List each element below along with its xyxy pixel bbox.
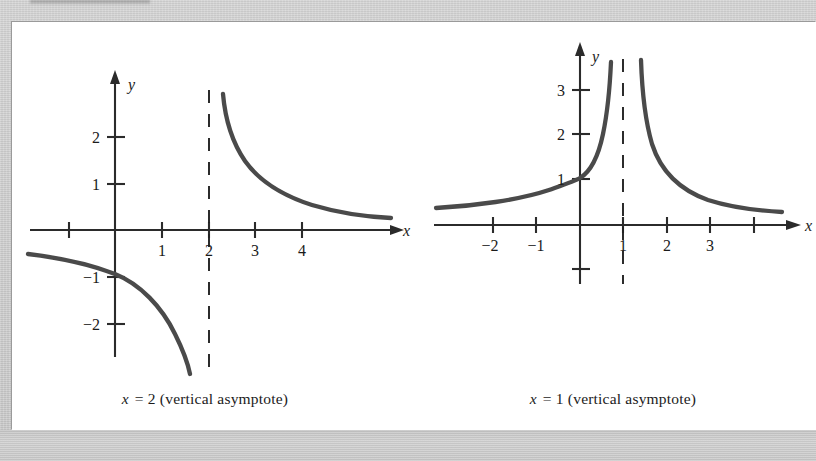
y-tick-label-3: 3 [557,82,565,99]
y-tick-label-2: 2 [557,126,565,143]
caption-left-note: (vertical asymptote) [160,390,288,407]
x-tick-label-4: 4 [298,242,306,259]
caption-left-variable: x [122,390,131,407]
caption-right-variable: x [530,390,539,407]
y-axis-label: y [126,76,136,94]
y-tick-label-minus1: −1 [83,269,100,286]
y-axis-right [575,42,585,284]
page-background: x y 1 2 3 4 2 1 −1 −2 x=2 (vertical asym… [0,0,816,461]
x-axis-arrowhead [390,225,404,235]
y-axis-label: y [590,48,600,66]
y-tick-label-1: 1 [92,176,100,193]
chart-right-plot: x y −2 −1 1 2 3 3 2 1 [414,22,816,390]
caption-right-note: (vertical asymptote) [568,390,696,407]
x-tick-label-2: 2 [663,237,671,254]
caption-left-value: 2 [148,390,156,407]
x-axis-left [30,225,404,235]
page-bottom-band [0,430,816,461]
x-tick-label-3: 3 [251,242,259,259]
x-tick-label-minus1: −1 [527,237,544,254]
y-tick-label-minus2: −2 [83,316,100,333]
y-axis-arrowhead [575,42,585,56]
x-tick-label-1: 1 [619,237,627,254]
y-tick-label-2: 2 [92,129,100,146]
y-axis-arrowhead [110,70,120,84]
chart-right: x y −2 −1 1 2 3 3 2 1 x=1 (vertical asym… [414,22,816,430]
chart-left-plot: x y 1 2 3 4 2 1 −1 −2 [12,22,414,390]
x-axis-arrowhead [786,220,801,230]
y-tick-label-1: 1 [557,171,565,188]
curve-right-branch [641,60,782,212]
x-axis-right [434,220,801,230]
curve-right-branch [223,94,391,218]
x-tick-label-3: 3 [706,237,714,254]
chart-left: x y 1 2 3 4 2 1 −1 −2 x=2 (vertical asym… [12,22,414,430]
caption-left-equals: = [131,390,148,407]
caption-right-value: 1 [556,390,564,407]
caption-left: x=2 (vertical asymptote) [4,390,406,408]
x-axis-label: x [402,222,410,239]
figure-panel: x y 1 2 3 4 2 1 −1 −2 x=2 (vertical asym… [12,22,816,430]
caption-right-equals: = [539,390,556,407]
x-tick-label-1: 1 [158,242,166,259]
x-tick-label-minus2: −2 [481,237,498,254]
x-axis-label: x [804,217,812,234]
y-axis-left [110,70,120,357]
x-tick-label-2: 2 [205,242,213,259]
caption-right: x=1 (vertical asymptote) [412,390,814,408]
page-top-bleed [30,0,150,5]
curve-left-branch [28,254,190,374]
